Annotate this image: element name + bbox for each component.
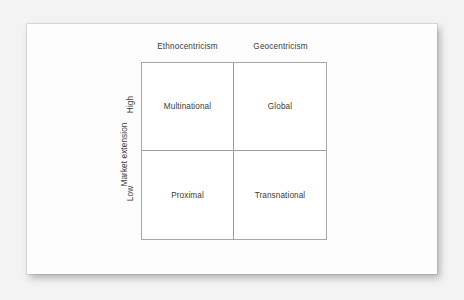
scan-backdrop: Ethnocentricism Geocentricism Market ext… xyxy=(0,0,464,300)
matrix-row-high: Multinational Global xyxy=(142,63,326,151)
matrix-row-low: Proximal Transnational xyxy=(142,151,326,239)
matrix-cell-global: Global xyxy=(234,63,326,150)
matrix-cell-multinational: Multinational xyxy=(142,63,234,150)
market-extension-matrix-diagram: Ethnocentricism Geocentricism Market ext… xyxy=(27,24,437,274)
column-header-geocentricism: Geocentricism xyxy=(234,40,327,54)
matrix-grid: Multinational Global Proximal Transnatio… xyxy=(141,62,327,240)
y-axis-tick-high: High xyxy=(126,75,135,135)
column-header-ethnocentricism: Ethnocentricism xyxy=(141,40,234,54)
document-page: Ethnocentricism Geocentricism Market ext… xyxy=(27,24,437,274)
y-axis-tick-low: Low xyxy=(126,164,135,224)
matrix-cell-proximal: Proximal xyxy=(142,151,234,239)
matrix-cell-transnational: Transnational xyxy=(234,151,326,239)
y-axis-title-anchor: Market extension xyxy=(89,62,103,240)
